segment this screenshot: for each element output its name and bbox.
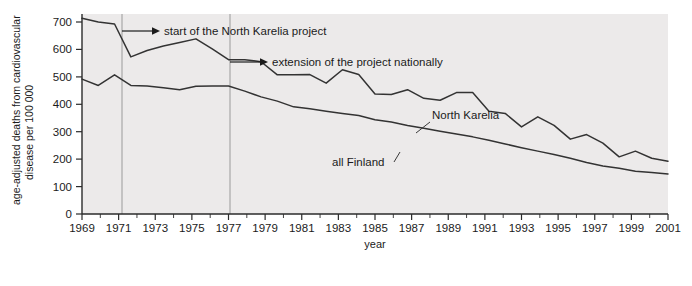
x-tick-label-1993: 1993: [509, 222, 535, 234]
x-tick-label-1973: 1973: [142, 222, 168, 234]
x-tick-label-1999: 1999: [619, 222, 645, 234]
series-label-all-finland: all Finland: [332, 156, 384, 168]
x-tick-label-1969: 1969: [69, 222, 95, 234]
y-tick-label-600: 600: [53, 43, 72, 55]
y-tick-label-400: 400: [53, 98, 72, 110]
x-tick-label-1975: 1975: [179, 222, 205, 234]
cardiovascular-mortality-line-chart: 700 600 500 400 300 200 100 0 age-adjust…: [0, 0, 692, 286]
y-axis-title-line2: disease per 100 000: [23, 85, 35, 180]
y-tick-label-100: 100: [53, 181, 72, 193]
x-tick-label-1985: 1985: [362, 222, 388, 234]
x-tick-label-1971: 1971: [106, 222, 132, 234]
x-tick-label-2001: 2001: [655, 222, 681, 234]
x-tick-label-1989: 1989: [435, 222, 461, 234]
x-axis-tick-labels: 1969197119731975197719791981198319851987…: [69, 222, 681, 234]
y-tick-label-0: 0: [66, 208, 72, 220]
x-tick-label-1991: 1991: [472, 222, 498, 234]
chart-figure: 700 600 500 400 300 200 100 0 age-adjust…: [0, 0, 692, 286]
extension-annotation-label: extension of the project nationally: [272, 56, 443, 68]
y-tick-label-300: 300: [53, 126, 72, 138]
x-tick-label-1995: 1995: [545, 222, 571, 234]
x-tick-label-1983: 1983: [326, 222, 352, 234]
y-tick-label-200: 200: [53, 153, 72, 165]
series-label-north-karelia: North Karelia: [432, 109, 500, 121]
x-axis-title: year: [364, 238, 386, 250]
y-tick-label-700: 700: [53, 16, 72, 28]
start-annotation-label: start of the North Karelia project: [164, 25, 327, 37]
x-tick-label-1979: 1979: [252, 222, 278, 234]
x-tick-label-1997: 1997: [582, 222, 608, 234]
y-tick-label-500: 500: [53, 71, 72, 83]
x-tick-label-1987: 1987: [399, 222, 425, 234]
x-tick-label-1977: 1977: [216, 222, 242, 234]
y-axis-title-line1: age-adjusted deaths from cardiovascular: [10, 15, 22, 205]
x-tick-label-1981: 1981: [289, 222, 315, 234]
